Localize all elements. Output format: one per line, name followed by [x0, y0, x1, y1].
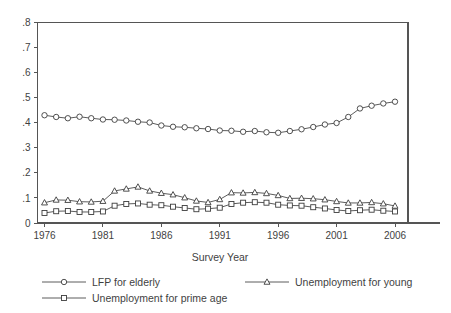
circle-marker — [392, 99, 397, 104]
circle-marker — [53, 114, 58, 119]
circle-marker — [100, 117, 105, 122]
circle-marker — [334, 120, 339, 125]
circle-marker — [311, 124, 316, 129]
square-marker — [311, 205, 316, 210]
square-marker — [229, 201, 234, 206]
circle-marker — [182, 125, 187, 130]
circle-marker — [240, 129, 245, 134]
chart-figure: 0.1.2.3.4.5.6.7.8 1976198119861991199620… — [0, 0, 451, 313]
y-tick-label: .3 — [22, 142, 31, 153]
square-marker — [42, 210, 47, 215]
circle-marker — [275, 130, 280, 135]
square-marker — [346, 208, 351, 213]
square-marker — [381, 208, 386, 213]
square-marker — [264, 200, 269, 205]
x-tick-label: 1981 — [92, 230, 115, 241]
square-marker — [182, 205, 187, 210]
circle-marker — [89, 116, 94, 121]
circle-marker — [264, 130, 269, 135]
x-tick-label: 1986 — [150, 230, 173, 241]
square-marker — [100, 209, 105, 214]
circle-marker — [287, 128, 292, 133]
square-marker — [299, 203, 304, 208]
circle-marker — [42, 113, 47, 118]
circle-marker — [124, 118, 129, 123]
square-marker — [393, 209, 398, 214]
square-marker — [54, 209, 59, 214]
square-marker — [89, 209, 94, 214]
y-tick-label: .7 — [22, 42, 31, 53]
circle-marker — [381, 101, 386, 106]
circle-marker — [147, 120, 152, 125]
square-marker — [369, 207, 374, 212]
y-tick-label: .8 — [22, 17, 31, 28]
square-marker — [322, 206, 327, 211]
circle-marker — [112, 117, 117, 122]
circle-marker — [369, 103, 374, 108]
y-tick-label: .2 — [22, 167, 31, 178]
circle-marker — [229, 128, 234, 133]
chart-background — [0, 0, 451, 313]
legend-label: Unemployment for prime age — [92, 292, 228, 304]
square-marker — [287, 203, 292, 208]
y-tick-label: .6 — [22, 67, 31, 78]
circle-marker — [159, 123, 164, 128]
y-tick-label: .4 — [22, 117, 31, 128]
circle-marker — [252, 128, 257, 133]
square-marker — [62, 296, 67, 301]
circle-marker — [299, 127, 304, 132]
y-tick-label: .1 — [22, 193, 31, 204]
line-chart: 0.1.2.3.4.5.6.7.8 1976198119861991199620… — [0, 0, 451, 313]
square-marker — [217, 205, 222, 210]
square-marker — [241, 200, 246, 205]
circle-marker — [170, 124, 175, 129]
square-marker — [135, 201, 140, 206]
circle-marker — [217, 128, 222, 133]
square-marker — [77, 209, 82, 214]
square-marker — [124, 201, 129, 206]
x-tick-label: 1976 — [33, 230, 56, 241]
square-marker — [159, 203, 164, 208]
circle-marker — [61, 279, 66, 284]
circle-marker — [65, 116, 70, 121]
square-marker — [252, 200, 257, 205]
square-marker — [334, 207, 339, 212]
square-marker — [194, 207, 199, 212]
y-tick-label: 0 — [25, 218, 31, 229]
square-marker — [171, 204, 176, 209]
square-marker — [65, 208, 70, 213]
circle-marker — [205, 126, 210, 131]
circle-marker — [194, 126, 199, 131]
square-marker — [357, 208, 362, 213]
circle-marker — [346, 114, 351, 119]
x-tick-label: 2006 — [384, 230, 407, 241]
square-marker — [147, 202, 152, 207]
legend-label: Unemployment for young — [295, 276, 412, 288]
square-marker — [206, 206, 211, 211]
x-axis-title: Survey Year — [192, 251, 249, 263]
legend-label: LFP for elderly — [92, 276, 161, 288]
square-marker — [112, 203, 117, 208]
circle-marker — [357, 106, 362, 111]
square-marker — [276, 202, 281, 207]
circle-marker — [77, 114, 82, 119]
x-tick-label: 1991 — [209, 230, 232, 241]
circle-marker — [322, 122, 327, 127]
circle-marker — [135, 119, 140, 124]
y-tick-label: .5 — [22, 92, 31, 103]
x-tick-label: 1996 — [267, 230, 290, 241]
x-tick-label: 2001 — [325, 230, 348, 241]
